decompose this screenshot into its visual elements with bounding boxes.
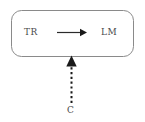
node-label-c: C: [67, 106, 75, 115]
node-label-lm: LM: [101, 28, 117, 37]
node-label-tr: TR: [24, 28, 38, 37]
edge-c-to-box: [66, 56, 76, 104]
diagram-canvas: TR LM C: [0, 0, 145, 122]
diagram-vector-layer: [0, 0, 145, 122]
edge-c-to-box-arrowhead-icon: [66, 56, 76, 67]
